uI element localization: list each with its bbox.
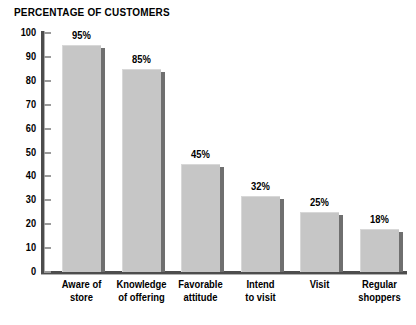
- category-label-line: Visit: [290, 279, 349, 292]
- bar-value-label: 95%: [50, 30, 113, 41]
- category-label-line: to visit: [230, 292, 289, 305]
- y-axis-tick-label: 100: [12, 28, 36, 38]
- category-label-line: Intend: [230, 279, 289, 292]
- x-axis-category-label: Visit: [290, 279, 349, 292]
- y-axis-tick-label: 70: [12, 100, 36, 110]
- bar-value-label: 45%: [169, 149, 232, 160]
- y-axis-tick-label: 60: [12, 124, 36, 134]
- category-label-line: Knowledge: [111, 279, 170, 292]
- bar-group: 45%: [181, 33, 220, 272]
- y-axis-tick-label: 20: [12, 219, 36, 229]
- category-label-line: shoppers: [349, 292, 408, 305]
- bar-shadow: [101, 45, 105, 272]
- x-axis-category-label: Aware ofstore: [52, 279, 111, 304]
- bar: [241, 196, 280, 272]
- bar-group: 18%: [360, 33, 399, 272]
- bar-shadow: [339, 212, 343, 272]
- bar-value-label: 32%: [229, 181, 292, 192]
- bar-value-label: 18%: [348, 214, 411, 225]
- bar-value-label: 25%: [288, 197, 351, 208]
- category-label-line: Regular: [349, 279, 408, 292]
- y-axis-tick-label: 50: [12, 148, 36, 158]
- bar-chart: PERCENTAGE OF CUSTOMERS 1009080706050403…: [0, 0, 416, 325]
- y-axis-tick-label: 10: [12, 243, 36, 253]
- x-axis-category-label: Knowledgeof offering: [111, 279, 170, 304]
- bar-shadow: [399, 229, 403, 272]
- bar: [122, 69, 161, 272]
- bar: [300, 212, 339, 272]
- y-axis-tick-label: 0: [12, 267, 36, 277]
- category-label-line: Favorable: [171, 279, 230, 292]
- y-axis-tick-labels: 1009080706050403020100: [8, 0, 36, 325]
- bar-shadow: [280, 196, 284, 272]
- category-label-line: store: [52, 292, 111, 305]
- bar-shadow: [220, 164, 224, 272]
- bar-group: 32%: [241, 33, 280, 272]
- x-axis-category-label: Regularshoppers: [349, 279, 408, 304]
- chart-title: PERCENTAGE OF CUSTOMERS: [14, 6, 170, 18]
- bar-value-label: 85%: [110, 54, 173, 65]
- category-label-line: attitude: [171, 292, 230, 305]
- x-axis-category-label: Intendto visit: [230, 279, 289, 304]
- y-axis-tick-label: 30: [12, 195, 36, 205]
- bar: [62, 45, 101, 272]
- category-label-line: Aware of: [52, 279, 111, 292]
- x-axis-category-label: Favorableattitude: [171, 279, 230, 304]
- bar-group: 85%: [122, 33, 161, 272]
- y-axis-tick-label: 40: [12, 171, 36, 181]
- bar: [181, 164, 220, 272]
- plot-area: 95%85%45%32%25%18%: [43, 33, 403, 272]
- y-axis-tick-label: 80: [12, 76, 36, 86]
- bar: [360, 229, 399, 272]
- bar-group: 25%: [300, 33, 339, 272]
- bar-group: 95%: [62, 33, 101, 272]
- bar-shadow: [161, 69, 165, 272]
- category-label-line: of offering: [111, 292, 170, 305]
- y-axis-tick-label: 90: [12, 52, 36, 62]
